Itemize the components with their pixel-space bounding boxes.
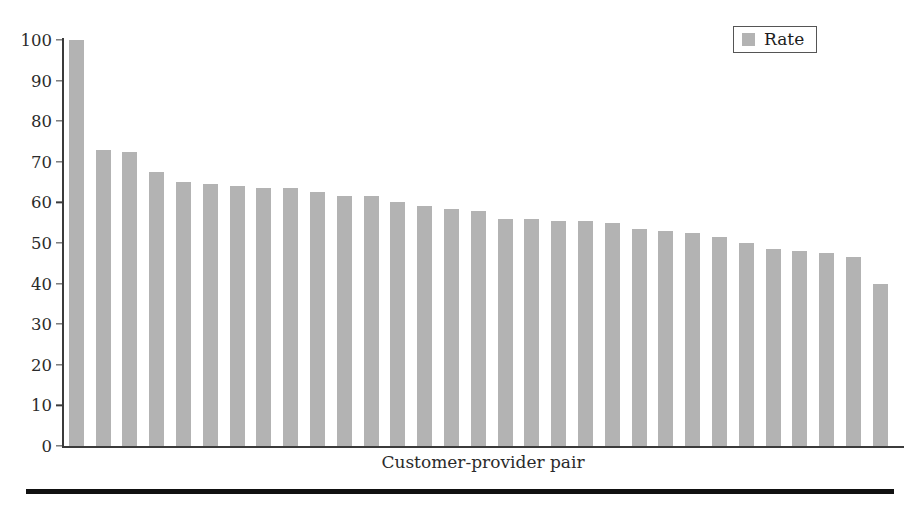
bar	[337, 196, 352, 446]
legend-label-rate: Rate	[764, 31, 804, 48]
bar	[551, 221, 566, 446]
bar	[766, 249, 781, 446]
bar	[846, 257, 861, 446]
bar	[417, 206, 432, 446]
bar	[471, 211, 486, 446]
bar	[605, 223, 620, 446]
legend-swatch-rate	[742, 33, 755, 46]
y-axis-tick-mark	[56, 283, 63, 284]
y-axis-tick-mark	[56, 364, 63, 365]
bar	[96, 150, 111, 446]
bar	[739, 243, 754, 446]
chart-legend: Rate	[733, 26, 817, 53]
bar	[390, 202, 405, 446]
y-axis-tick-label: 90	[31, 71, 52, 90]
x-axis-label: Customer-provider pair	[63, 452, 903, 472]
y-axis-tick-label: 0	[42, 437, 53, 456]
bar-series-rate	[63, 40, 903, 446]
bar	[69, 40, 84, 446]
bar	[685, 233, 700, 446]
bar	[712, 237, 727, 446]
bar	[873, 284, 888, 446]
x-axis-line	[62, 446, 904, 448]
bar	[578, 221, 593, 446]
y-axis-tick-mark	[56, 161, 63, 162]
y-axis-tick-label: 40	[31, 274, 52, 293]
y-axis-tick-label: 70	[31, 152, 52, 171]
bar	[149, 172, 164, 446]
bar	[364, 196, 379, 446]
y-axis-tick-label: 60	[31, 193, 52, 212]
y-axis-tick-mark	[56, 39, 63, 40]
bar	[524, 219, 539, 446]
bar	[176, 182, 191, 446]
bar	[283, 188, 298, 446]
y-axis-tick-label: 80	[31, 112, 52, 131]
bar	[230, 186, 245, 446]
bar	[310, 192, 325, 446]
y-axis-tick-mark	[56, 242, 63, 243]
bar	[792, 251, 807, 446]
bar	[203, 184, 218, 446]
y-axis-tick-label: 10	[31, 396, 52, 415]
y-axis-tick-mark	[56, 445, 63, 446]
bar	[658, 231, 673, 446]
y-axis-tick-mark	[56, 405, 63, 406]
y-axis-tick-label: 20	[31, 355, 52, 374]
bar	[632, 229, 647, 446]
bar	[819, 253, 834, 446]
footer-rule	[26, 489, 894, 494]
y-axis-tick-label: 100	[21, 31, 53, 50]
y-axis-tick-mark	[56, 121, 63, 122]
y-axis-tick-label: 30	[31, 315, 52, 334]
bar	[122, 152, 137, 446]
bar-chart-figure: 0102030405060708090100 Customer-provider…	[0, 0, 918, 512]
plot-area: 0102030405060708090100	[63, 40, 903, 446]
y-axis-tick-label: 50	[31, 234, 52, 253]
y-axis-tick-mark	[56, 80, 63, 81]
y-axis-tick-mark	[56, 324, 63, 325]
bar	[256, 188, 271, 446]
y-axis-tick-mark	[56, 202, 63, 203]
bar	[498, 219, 513, 446]
bar	[444, 209, 459, 447]
